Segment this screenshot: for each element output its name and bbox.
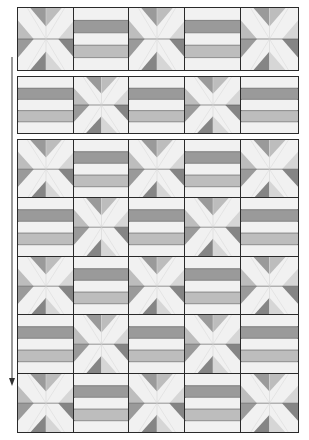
stripe-block <box>241 315 298 373</box>
x-block <box>74 315 129 373</box>
stripe-block <box>74 8 129 70</box>
x-block <box>18 257 74 315</box>
stripe-block <box>185 8 241 70</box>
x-block <box>129 8 185 70</box>
stripe-block <box>241 77 298 133</box>
stripe-block <box>241 198 298 256</box>
stripe-block <box>185 257 241 315</box>
stripe-block <box>18 315 74 373</box>
stripe-block <box>129 198 185 256</box>
x-block <box>185 77 241 133</box>
stripe-block <box>18 198 74 256</box>
x-block <box>185 198 241 256</box>
x-block <box>74 198 129 256</box>
stripe-block <box>185 374 241 432</box>
quilt-diagram <box>0 0 309 440</box>
x-block <box>129 374 185 432</box>
stripe-block <box>129 315 185 373</box>
x-block <box>185 315 241 373</box>
x-block <box>129 257 185 315</box>
down-arrow-icon <box>0 0 24 440</box>
stripe-block <box>74 374 129 432</box>
stripe-block <box>18 77 74 133</box>
x-block <box>241 257 298 315</box>
x-block <box>241 8 298 70</box>
stripe-block <box>129 77 185 133</box>
x-block <box>241 374 298 432</box>
stripe-block <box>74 140 129 198</box>
x-block <box>18 8 74 70</box>
x-block <box>18 140 74 198</box>
stripe-block <box>74 257 129 315</box>
x-block <box>129 140 185 198</box>
x-block <box>18 374 74 432</box>
x-block <box>241 140 298 198</box>
x-block <box>74 77 129 133</box>
stripe-block <box>185 140 241 198</box>
